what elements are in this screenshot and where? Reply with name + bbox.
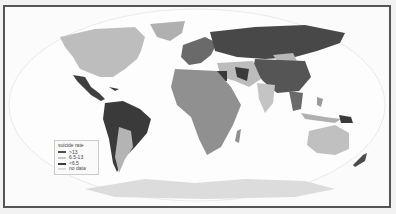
legend-swatch bbox=[58, 168, 66, 170]
legend-swatch bbox=[58, 163, 66, 165]
legend-title: suicide rate bbox=[58, 143, 95, 149]
legend-item: no data bbox=[58, 166, 95, 172]
legend-swatch bbox=[58, 151, 66, 153]
map-frame: suicide rate >13 6.5-13 <6.5 no data bbox=[3, 5, 391, 208]
world-map bbox=[5, 7, 389, 206]
legend-swatch bbox=[58, 157, 66, 159]
legend-label: no data bbox=[69, 166, 86, 172]
map-legend: suicide rate >13 6.5-13 <6.5 no data bbox=[54, 140, 99, 175]
